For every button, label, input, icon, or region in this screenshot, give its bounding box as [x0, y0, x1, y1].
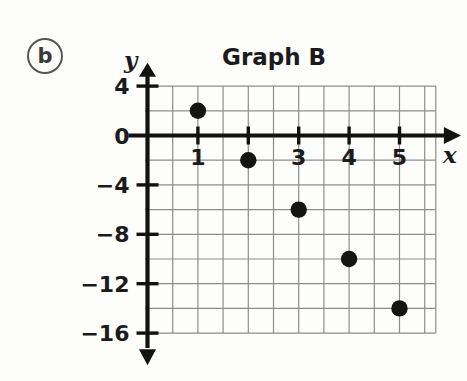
data-point [291, 201, 307, 217]
data-point [391, 300, 407, 316]
y-axis-label: y [123, 46, 139, 73]
y-tick-label: −12 [80, 272, 129, 297]
x-tick-label: 3 [291, 145, 306, 170]
y-axis-arrow-down [139, 349, 156, 365]
y-tick-label: −8 [96, 222, 130, 247]
gridlines [145, 86, 436, 333]
y-tick-label: −4 [96, 173, 130, 198]
graph-figure: b Graph B 134540−4−8−12−16 y x [0, 0, 467, 381]
y-axis-arrow-up [139, 63, 156, 77]
x-axis-label: x [442, 141, 457, 168]
x-tick-label: 4 [341, 145, 356, 170]
y-tick-label: 4 [114, 74, 129, 99]
y-tick-label: 0 [114, 124, 129, 149]
data-point [240, 152, 256, 168]
scatter-plot: 134540−4−8−12−16 y x [0, 0, 467, 381]
x-tick-label: 5 [392, 145, 407, 170]
y-tick-label: −16 [80, 321, 129, 346]
data-point [190, 103, 206, 119]
data-point [341, 251, 357, 267]
x-tick-label: 1 [190, 145, 205, 170]
